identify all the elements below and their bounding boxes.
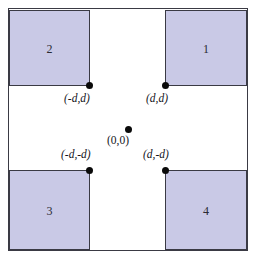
quadrant-2-label: 2 bbox=[10, 42, 89, 57]
point-label-d-d: (d,d) bbox=[146, 92, 168, 104]
quadrant-1-label: 1 bbox=[166, 42, 246, 57]
point-marker-origin bbox=[125, 126, 132, 133]
quadrant-1-square: 1 bbox=[165, 10, 247, 86]
point-marker-negative-d-d bbox=[86, 82, 93, 89]
quadrant-4-square: 4 bbox=[165, 170, 247, 250]
quadrant-3-label: 3 bbox=[10, 204, 89, 219]
point-label-negative-d-d: (-d,d) bbox=[64, 92, 90, 104]
quadrant-4-label: 4 bbox=[166, 204, 246, 219]
quadrant-3-square: 3 bbox=[9, 170, 90, 250]
quadrant-diagram: 2 1 3 4 (-d,d) (d,d) (0,0) (-d,-d) (d,-d… bbox=[0, 0, 256, 260]
point-label-negative-d-negative-d: (-d,-d) bbox=[61, 148, 91, 160]
point-marker-d-negative-d bbox=[162, 167, 169, 174]
point-label-d-negative-d: (d,-d) bbox=[143, 148, 169, 160]
quadrant-2-square: 2 bbox=[9, 10, 90, 86]
point-marker-negative-d-negative-d bbox=[86, 167, 93, 174]
point-marker-d-d bbox=[162, 82, 169, 89]
point-label-origin: (0,0) bbox=[107, 134, 129, 146]
